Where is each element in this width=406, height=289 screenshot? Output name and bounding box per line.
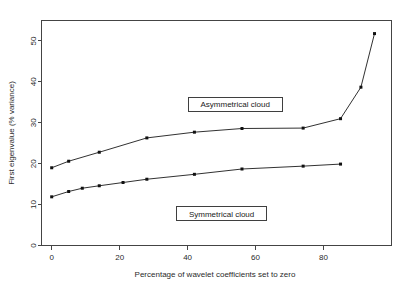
- data-point-marker: [339, 163, 342, 166]
- data-point-marker: [145, 136, 148, 139]
- annotation-2: Symmetrical cloud: [177, 207, 267, 221]
- data-point-marker: [359, 86, 362, 89]
- x-tick-label: 40: [183, 253, 192, 262]
- annotation-label: Symmetrical cloud: [189, 210, 254, 219]
- data-point-marker: [302, 165, 305, 168]
- annotation-label: Asymmetrical cloud: [201, 100, 270, 109]
- data-point-marker: [98, 151, 101, 154]
- data-point-marker: [67, 160, 70, 163]
- y-tick-label: 10: [29, 200, 38, 209]
- data-point-marker: [339, 117, 342, 120]
- data-point-marker: [50, 166, 53, 169]
- eigenvalue-line-chart: 01020304050 020406080 Asymmetrical cloud…: [0, 0, 406, 289]
- y-tick-label: 0: [29, 243, 38, 248]
- data-point-marker: [193, 173, 196, 176]
- annotation-1: Asymmetrical cloud: [188, 97, 282, 111]
- x-tick-label: 80: [319, 253, 328, 262]
- data-point-marker: [240, 168, 243, 171]
- data-point-marker: [81, 187, 84, 190]
- data-point-marker: [145, 178, 148, 181]
- x-tick-label: 20: [115, 253, 124, 262]
- data-point-marker: [98, 184, 101, 187]
- data-point-marker: [240, 127, 243, 130]
- data-point-marker: [67, 190, 70, 193]
- data-point-marker: [50, 195, 53, 198]
- y-axis-title: First eigenvalue (% variance): [7, 81, 16, 185]
- y-tick-label: 20: [29, 159, 38, 168]
- data-point-marker: [122, 181, 125, 184]
- y-tick-label: 30: [29, 118, 38, 127]
- x-tick-label: 0: [49, 253, 54, 262]
- y-tick-label: 50: [29, 36, 38, 45]
- y-tick-label: 40: [29, 77, 38, 86]
- data-point-marker: [193, 131, 196, 134]
- x-tick-label: 60: [251, 253, 260, 262]
- chart-figure: 01020304050 020406080 Asymmetrical cloud…: [0, 0, 406, 289]
- x-axis-title: Percentage of wavelet coefficients set t…: [135, 270, 296, 279]
- data-point-marker: [373, 32, 376, 35]
- data-point-marker: [302, 127, 305, 130]
